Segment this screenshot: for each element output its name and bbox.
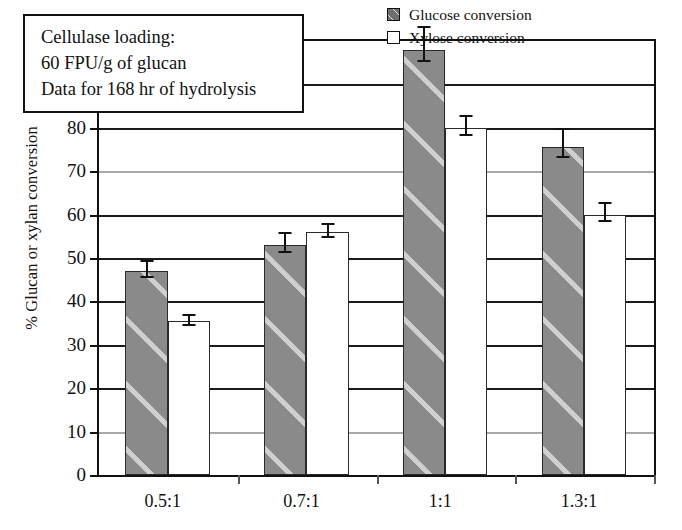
error-bar: [146, 260, 148, 276]
y-axis-tick-label: 30: [67, 333, 86, 355]
x-axis-tick: [515, 475, 517, 484]
annotation-line-2: 60 FPU/g of glucan: [41, 50, 302, 76]
error-bar-cap-top: [599, 202, 612, 204]
y-axis-tick-label: 0: [77, 464, 87, 486]
error-bar: [604, 202, 606, 221]
error-bar: [465, 115, 467, 134]
error-bar-cap-bottom: [460, 134, 473, 136]
error-bar-cap-bottom: [279, 251, 292, 253]
error-bar-cap-bottom: [140, 276, 153, 278]
legend-label-xylose: Xylose conversion: [409, 29, 525, 47]
error-bar: [284, 232, 286, 251]
x-axis-tick-label: 1:1: [429, 491, 452, 512]
y-axis-tick-label: 80: [67, 116, 86, 138]
bar-glucose-1:1: [403, 50, 445, 475]
chart-legend: Glucose conversion Xylose conversion: [387, 3, 532, 49]
error-bar-cap-bottom: [599, 220, 612, 222]
gridline: [99, 128, 654, 130]
error-bar-cap-top: [321, 223, 334, 225]
y-axis-tick: [90, 258, 99, 260]
error-bar-cap-top: [460, 115, 473, 117]
error-bar-cap-bottom: [321, 236, 334, 238]
error-bar-cap-top: [140, 260, 153, 262]
x-axis-tick-label: 1.3:1: [561, 491, 598, 512]
error-bar-cap-top: [279, 232, 292, 234]
y-axis-tick: [90, 345, 99, 347]
y-axis-tick-label: 10: [67, 420, 86, 442]
annotation-box: Cellulase loading: 60 FPU/g of glucan Da…: [23, 14, 304, 113]
bar-chart-figure: % Glucan or xylan conversion 01020304050…: [0, 0, 682, 530]
x-axis-tick-label: 0.5:1: [145, 491, 182, 512]
error-bar-cap-top: [182, 314, 195, 316]
y-axis-tick-label: 50: [67, 247, 86, 269]
y-axis-tick: [90, 128, 99, 130]
y-axis-tick-label: 40: [67, 290, 86, 312]
x-axis-tick-label: 0.7:1: [283, 491, 320, 512]
x-axis-tick: [377, 475, 379, 484]
y-axis-tick-label: 60: [67, 203, 86, 225]
legend-swatch-glucose-icon: [387, 8, 400, 21]
legend-item-glucose: Glucose conversion: [387, 3, 532, 26]
y-axis-tick: [90, 432, 99, 434]
x-axis-tick: [654, 475, 656, 484]
legend-swatch-xylose-icon: [387, 31, 400, 44]
error-bar-cap-bottom: [556, 156, 569, 158]
annotation-line-1: Cellulase loading:: [41, 24, 302, 50]
bar-xylose-1:1: [445, 128, 487, 475]
bar-glucose-0.7:1: [264, 245, 306, 475]
bar-xylose-0.7:1: [306, 232, 348, 475]
legend-item-xylose: Xylose conversion: [387, 26, 532, 49]
bar-glucose-1.3:1: [542, 147, 584, 475]
y-axis-tick: [90, 475, 99, 477]
y-axis-tick-label: 70: [67, 160, 86, 182]
error-bar-cap-top: [556, 128, 569, 130]
x-axis-tick: [238, 475, 240, 484]
error-bar: [562, 128, 564, 156]
y-axis-tick: [90, 388, 99, 390]
legend-label-glucose: Glucose conversion: [409, 6, 532, 24]
y-axis-tick-label: 20: [67, 377, 86, 399]
error-bar-cap-bottom: [418, 60, 431, 62]
y-axis-tick: [90, 215, 99, 217]
error-bar-cap-bottom: [182, 324, 195, 326]
bar-xylose-1.3:1: [584, 215, 626, 475]
annotation-line-3: Data for 168 hr of hydrolysis: [41, 76, 302, 102]
bar-glucose-0.5:1: [125, 271, 167, 475]
y-axis-tick: [90, 301, 99, 303]
bar-xylose-0.5:1: [168, 321, 210, 475]
y-axis-tick: [90, 171, 99, 173]
